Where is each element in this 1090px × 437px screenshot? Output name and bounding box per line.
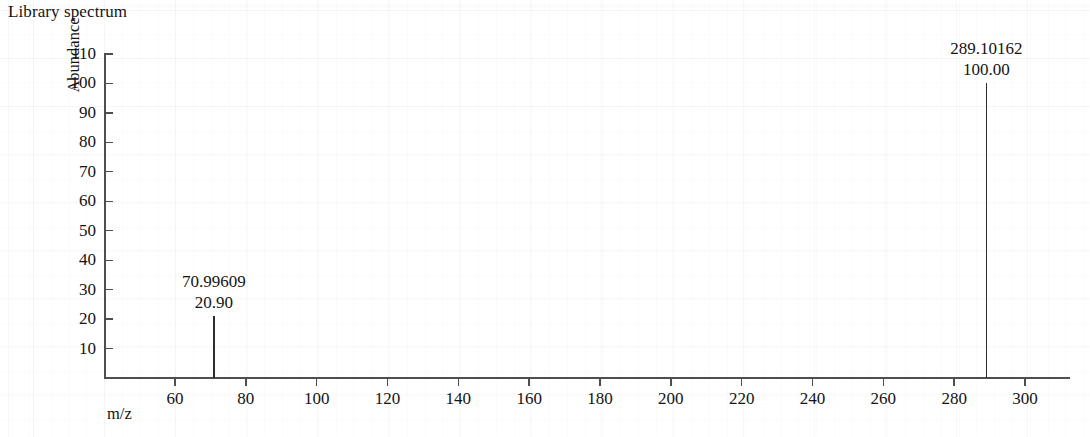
mass-spectrum-figure: Library spectrum Abundance 1101009080706…: [0, 0, 1090, 437]
peak-bar: [986, 83, 988, 378]
x-axis-tick-label: 100: [287, 389, 347, 408]
peak-annotation: 70.9960920.90: [114, 271, 314, 313]
y-axis-tick: [104, 53, 113, 54]
y-axis-tick-label: 110: [50, 45, 96, 62]
x-axis-tick: [670, 378, 671, 386]
peak-mz-label: 70.99609: [114, 271, 314, 292]
y-axis-tick-label: 20: [50, 310, 96, 327]
y-axis-tick: [104, 318, 113, 319]
graph-paper-texture: [0, 0, 1090, 437]
x-axis-tick-label: 200: [641, 389, 701, 408]
x-axis-label: m/z: [107, 404, 132, 424]
y-axis-tick-label: 30: [50, 281, 96, 298]
y-axis-label: Abundance: [2, 0, 24, 66]
y-axis-tick-label: 10: [50, 340, 96, 357]
x-axis-tick-label: 260: [853, 389, 913, 408]
y-axis-tick: [104, 112, 113, 113]
y-axis-tick-label: 100: [50, 74, 96, 91]
x-axis-tick: [883, 378, 884, 386]
y-axis-tick-label: 50: [50, 222, 96, 239]
x-axis-tick-label: 240: [783, 389, 843, 408]
x-axis-tick: [387, 378, 388, 386]
x-axis-tick: [174, 378, 175, 386]
x-axis-tick: [741, 378, 742, 386]
x-axis-tick-label: 160: [499, 389, 559, 408]
y-axis-tick-label: 80: [50, 133, 96, 150]
x-axis-tick-label: 60: [145, 389, 205, 408]
graph-paper-fine-texture: [0, 0, 1090, 437]
y-axis-tick-label: 70: [50, 163, 96, 180]
x-axis-tick-label: 80: [216, 389, 276, 408]
x-axis-tick: [316, 378, 317, 386]
y-axis-line: [104, 53, 106, 379]
x-axis-tick-label: 120: [358, 389, 418, 408]
y-axis-tick: [104, 83, 113, 84]
peak-mz-label: 289.10162: [886, 38, 1086, 59]
x-axis-tick-label: 300: [995, 389, 1055, 408]
y-axis-tick: [104, 230, 113, 231]
x-axis-tick-label: 220: [712, 389, 772, 408]
y-axis-tick: [104, 260, 113, 261]
y-axis-tick: [104, 289, 113, 290]
peak-bar: [213, 316, 215, 378]
y-axis-tick: [104, 201, 113, 202]
peak-abundance-label: 100.00: [886, 59, 1086, 80]
x-axis-tick-label: 180: [570, 389, 630, 408]
x-axis-tick: [599, 378, 600, 386]
x-axis-line: [104, 377, 1070, 379]
x-axis-tick: [953, 378, 954, 386]
y-axis-tick: [104, 171, 113, 172]
y-axis-tick: [104, 142, 113, 143]
peak-annotation: 289.10162100.00: [886, 38, 1086, 80]
x-axis-tick-label: 140: [428, 389, 488, 408]
peak-abundance-label: 20.90: [114, 292, 314, 313]
y-axis-tick-label: 90: [50, 104, 96, 121]
x-axis-tick-label: 280: [924, 389, 984, 408]
x-axis-tick: [1024, 378, 1025, 386]
y-axis-tick-label: 60: [50, 192, 96, 209]
x-axis-tick: [458, 378, 459, 386]
y-axis-tick-label: 40: [50, 251, 96, 268]
x-axis-tick: [245, 378, 246, 386]
x-axis-tick: [812, 378, 813, 386]
y-axis-tick: [104, 348, 113, 349]
x-axis-tick: [528, 378, 529, 386]
